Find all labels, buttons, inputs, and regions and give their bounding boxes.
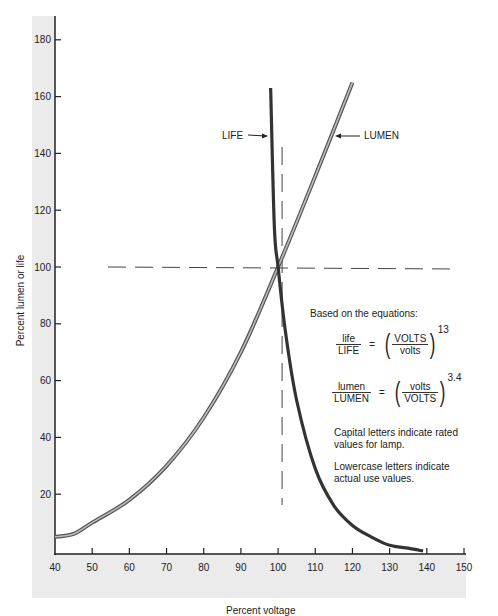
life-equation: lifeLIFE=(VOLTSvolts)13 [336, 330, 449, 358]
lumen-callout-label: LUMEN [364, 130, 399, 141]
x-tick-label: 70 [161, 562, 173, 573]
x-tick-label: 120 [344, 562, 361, 573]
life-exponent: 13 [438, 324, 449, 335]
lumen-curve [55, 82, 352, 536]
x-tick-label: 150 [456, 562, 473, 573]
lumen-fraction: lumenLUMEN [332, 381, 371, 404]
x-tick-label: 50 [87, 562, 99, 573]
capital-letters-note: Capital letters indicate rated values fo… [334, 427, 474, 451]
y-tick-label: 180 [34, 34, 51, 45]
x-tick-label: 100 [270, 562, 287, 573]
x-tick-label: 90 [235, 562, 247, 573]
x-tick-label: 60 [124, 562, 136, 573]
y-tick-label: 120 [34, 205, 51, 216]
x-tick-label: 40 [49, 562, 61, 573]
life-arrow-head [262, 134, 268, 139]
y-axis-label: Percent lumen or life [15, 241, 26, 361]
life-callout-label: LIFE [222, 130, 243, 141]
y-tick-label: 140 [34, 148, 51, 159]
lumen-exponent: 3.4 [448, 372, 462, 383]
x-tick-label: 80 [198, 562, 210, 573]
volts-ratio-fraction: voltsVOLTS [402, 381, 438, 404]
y-tick-label: 80 [40, 318, 52, 329]
y-tick-label: 160 [34, 91, 51, 102]
x-tick-label: 110 [307, 562, 323, 573]
lowercase-letters-note: Lowercase letters indicate actual use va… [334, 461, 474, 485]
volts-ratio-fraction: VOLTSvolts [392, 333, 428, 356]
y-tick-label: 100 [34, 262, 51, 273]
x-tick-label: 130 [381, 562, 398, 573]
x-tick-label: 140 [418, 562, 435, 573]
equations-heading: Based on the equations: [310, 308, 480, 320]
y-tick-label: 40 [40, 432, 52, 443]
y-tick-label: 20 [40, 489, 52, 500]
reference-line-100-percent [108, 267, 455, 269]
y-tick-label: 60 [40, 375, 52, 386]
life-fraction: lifeLIFE [336, 333, 361, 356]
lumen-curve-outline [55, 82, 352, 536]
x-axis-label: Percent voltage [226, 605, 296, 616]
lumen-equation: lumenLUMEN=(voltsVOLTS)3.4 [332, 378, 461, 406]
lumen-arrow-head [335, 134, 341, 139]
